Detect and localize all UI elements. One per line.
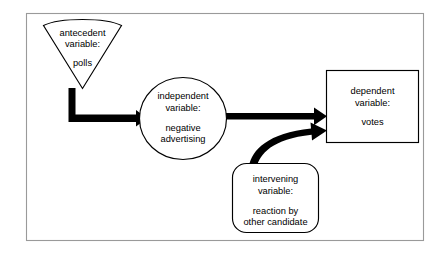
- node-independent-variable: independent variable: negative advertisi…: [140, 78, 227, 160]
- dependent-line-3: votes: [361, 117, 384, 127]
- antecedent-line-1: antecedent: [59, 28, 105, 38]
- independent-line-4: advertising: [161, 134, 206, 144]
- intervening-line-1: intervening: [253, 174, 298, 184]
- independent-line-1: independent: [157, 91, 209, 101]
- causal-model-diagram: antecedent variable: polls independent v…: [0, 0, 448, 258]
- node-dependent-variable: dependent variable: votes: [327, 71, 419, 143]
- intervening-line-3: reaction by: [253, 206, 299, 216]
- independent-line-3: negative: [165, 123, 200, 133]
- intervening-line-2: variable:: [258, 186, 293, 196]
- antecedent-line-3: polls: [73, 58, 92, 68]
- antecedent-line-2: variable:: [65, 39, 100, 49]
- intervening-line-4: other candidate: [243, 217, 307, 227]
- node-intervening-variable: intervening variable: reaction by other …: [233, 164, 319, 233]
- dependent-line-1: dependent: [351, 86, 395, 96]
- diagram-canvas: antecedent variable: polls independent v…: [0, 0, 448, 258]
- dependent-line-2: variable:: [355, 98, 390, 108]
- independent-line-2: variable:: [165, 103, 200, 113]
